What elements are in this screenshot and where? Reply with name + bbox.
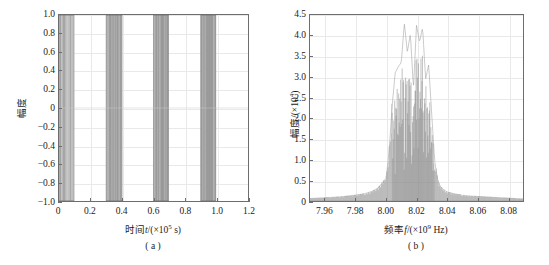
y-tick-mark (309, 139, 313, 140)
subplot-a: 00.20.40.60.81.01.2−1.0−0.8−0.6−0.4−0.20… (0, 0, 275, 265)
y-tick-label: 0 (50, 103, 55, 113)
y-tick-label: 3.5 (294, 51, 306, 61)
y-axis-title-b-exp: 4 (288, 94, 296, 98)
figure-two-subplots: 00.20.40.60.81.01.2−1.0−0.8−0.6−0.4−0.20… (0, 0, 549, 265)
x-tick-mark (355, 198, 356, 202)
y-axis-title-b-prefix: 幅度 (290, 118, 300, 138)
x-axis-title-b-unit-close: Hz) (431, 225, 448, 235)
y-tick-label: 0.6 (43, 47, 55, 57)
x-tick-label: 8.06 (470, 206, 487, 216)
x-axis-title-a-unit-close: s) (172, 225, 181, 235)
x-tick-mark (249, 198, 250, 202)
y-tick-mark (58, 52, 62, 53)
y-tick-mark (309, 98, 313, 99)
x-tick-label: 0 (56, 206, 61, 216)
x-axis-title-a-prefix: 时间 (125, 225, 145, 235)
y-axis-title-b-unit-open: /(×10 (290, 97, 300, 118)
x-tick-mark (154, 198, 155, 202)
subplot-caption-b: ( b ) (408, 241, 424, 251)
x-axis-title-b: 频率f/(×109 Hz) (384, 222, 447, 236)
subplot-caption-a: ( a ) (145, 241, 160, 251)
x-tick-label: 8.04 (439, 206, 456, 216)
y-tick-mark (309, 35, 313, 36)
y-tick-label: 4.5 (294, 9, 306, 19)
x-tick-label: 1.0 (211, 206, 223, 216)
y-tick-mark (58, 183, 62, 184)
spectrum-series-b (310, 15, 523, 201)
y-tick-label: −0.4 (38, 141, 55, 151)
x-tick-label: 0.2 (84, 206, 96, 216)
y-tick-mark (58, 33, 62, 34)
y-axis-title-a: 幅度 (14, 98, 28, 118)
x-tick-mark (386, 198, 387, 202)
x-tick-mark (90, 198, 91, 202)
y-tick-label: −0.6 (38, 159, 55, 169)
y-tick-label: 0.2 (43, 84, 55, 94)
y-axis-title-b: 幅度/(×104) (287, 91, 301, 138)
y-tick-mark (309, 14, 313, 15)
y-tick-mark (309, 77, 313, 78)
x-axis-title-a: 时间t/(×105 s) (125, 222, 181, 236)
y-tick-mark (309, 118, 313, 119)
x-tick-mark (417, 198, 418, 202)
x-tick-label: 0.4 (116, 206, 128, 216)
y-tick-label: 0.8 (43, 28, 55, 38)
x-tick-mark (122, 198, 123, 202)
x-tick-label: 1.2 (243, 206, 255, 216)
y-tick-label: 0.4 (43, 65, 55, 75)
x-tick-mark (509, 198, 510, 202)
x-tick-label: 7.96 (316, 206, 333, 216)
x-tick-label: 7.98 (347, 206, 364, 216)
x-tick-mark (478, 198, 479, 202)
y-tick-mark (58, 14, 62, 15)
y-tick-label: 0.5 (294, 176, 306, 186)
y-tick-mark (58, 202, 62, 203)
x-tick-mark (217, 198, 218, 202)
plot-area-a (58, 14, 249, 202)
x-tick-mark (324, 198, 325, 202)
y-tick-mark (58, 108, 62, 109)
subplot-b: 7.967.988.008.028.048.068.0800.51.01.52.… (275, 0, 549, 265)
y-tick-mark (58, 164, 62, 165)
plot-area-b (309, 14, 524, 202)
y-tick-mark (58, 127, 62, 128)
y-tick-label: −0.8 (38, 178, 55, 188)
y-tick-mark (58, 146, 62, 147)
y-tick-label: 1.0 (294, 155, 306, 165)
y-tick-mark (309, 202, 313, 203)
y-tick-label: −0.2 (38, 122, 55, 132)
y-tick-label: 1.0 (43, 9, 55, 19)
y-tick-mark (309, 181, 313, 182)
y-axis-title-a-text: 幅度 (17, 98, 27, 118)
x-tick-label: 8.08 (500, 206, 517, 216)
y-tick-mark (309, 160, 313, 161)
y-tick-label: 0 (301, 197, 306, 207)
spectrum-trace (310, 24, 523, 201)
x-tick-label: 8.02 (408, 206, 425, 216)
x-tick-label: 0.6 (148, 206, 160, 216)
y-tick-label: 4.0 (294, 30, 306, 40)
y-tick-label: 3.0 (294, 72, 306, 82)
y-tick-label: −1.0 (38, 197, 55, 207)
y-tick-mark (58, 89, 62, 90)
x-tick-label: 8.00 (377, 206, 394, 216)
x-axis-title-b-unit-open: /(×10 (407, 225, 428, 235)
y-tick-mark (309, 56, 313, 57)
x-axis-title-b-prefix: 频率 (384, 225, 404, 235)
x-tick-label: 0.8 (179, 206, 191, 216)
x-tick-mark (447, 198, 448, 202)
y-tick-mark (58, 70, 62, 71)
x-tick-mark (185, 198, 186, 202)
x-axis-title-a-unit-open: /(×10 (148, 225, 169, 235)
waveform-series-a (59, 15, 248, 201)
y-axis-title-b-unit-close: ) (290, 91, 300, 94)
